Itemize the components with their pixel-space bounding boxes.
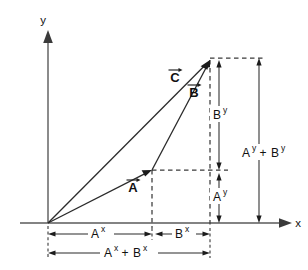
dimension-total-x-label-b: B: [133, 246, 141, 260]
dimension-by-label: B: [213, 108, 221, 122]
dimension-total-y-plus-sign: +: [259, 146, 266, 160]
vector-diagram-figure: y x A: [0, 0, 308, 270]
vector-diagram-canvas: y x A: [0, 0, 308, 270]
dimension-total-y-label-b: B: [271, 146, 279, 160]
y-axis-label: y: [40, 14, 46, 26]
vector-b-label: B: [189, 85, 198, 100]
dimension-total-x-plus-sign: +: [121, 246, 128, 260]
dimension-bx-label: B: [175, 227, 183, 241]
vector-a-label: A: [128, 180, 138, 195]
dimension-ax-label: A: [91, 227, 99, 241]
dimension-ay-label: A: [213, 190, 221, 204]
dimension-total-x-label-a: A: [104, 246, 112, 260]
dimension-total-y-label-a: A: [242, 146, 250, 160]
vector-c-label: C: [170, 70, 180, 85]
x-axis-label: x: [295, 217, 301, 229]
